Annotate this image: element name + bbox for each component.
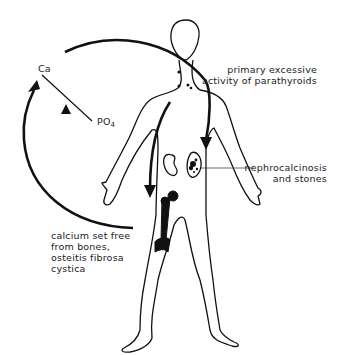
bone-label: calcium set free from bones, osteitis fi… [51,230,130,274]
kidney-label-line2: and stones [244,173,327,184]
parathyroid-glands [177,70,192,89]
kidney-stones-icon [189,159,198,173]
triangle-fulcrum-icon [61,104,71,114]
bone-label-line2: from bones, [51,241,130,252]
arrow-down-kidney-icon [200,137,212,150]
circulation-arc [24,40,210,228]
bone-label-line3: osteitis fibrosa [51,252,130,263]
bone-label-line4: cystica [51,263,130,274]
po4-base: PO [97,116,111,127]
ca-po4-balance [42,75,92,121]
parathyroid-label: primary excessive activity of parathyroi… [202,64,317,86]
arrow-down-bone-icon [144,185,156,198]
po4-label: PO4 [97,116,115,131]
parathyroid-label-line1: primary excessive [202,64,317,75]
arrow-up-ca-icon [28,80,40,92]
parathyroid-label-line2: activity of parathyroids [202,75,317,86]
kidney-label-line1: nephrocalcinosis [244,162,327,173]
arrowheads [28,80,212,198]
kidney-label: nephrocalcinosis and stones [244,162,327,184]
bone-label-line1: calcium set free [51,230,130,241]
ca-label: Ca [38,63,51,74]
po4-subscript: 4 [111,121,116,129]
femur-bone-icon [155,191,178,252]
